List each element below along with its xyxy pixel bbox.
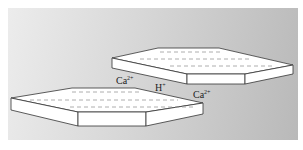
upper-clay-plate (112, 48, 293, 84)
clay-platelets-diagram (0, 0, 303, 150)
hydrogen-ion-label: H+ (155, 83, 166, 93)
calcium-ion-label-right: Ca2+ (193, 90, 211, 100)
calcium-ion-label-left: Ca2+ (116, 76, 134, 86)
lower-clay-plate (11, 88, 203, 126)
